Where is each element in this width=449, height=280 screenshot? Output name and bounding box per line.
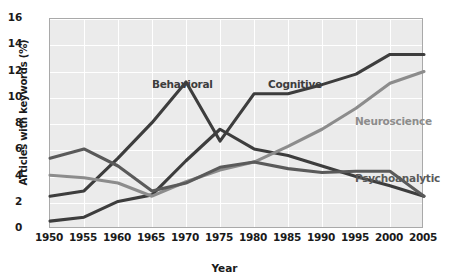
x-tick-label: 2005 [403, 231, 443, 243]
y-axis-label: Articles with keywords (%) [18, 38, 29, 188]
series-label-cognitive: Cognitive [268, 78, 322, 90]
y-tick-label: 16 [8, 11, 22, 23]
y-tick-label: 2 [15, 195, 22, 207]
y-tick-label: 0 [15, 221, 22, 233]
series-label-neuroscience: Neuroscience [355, 115, 432, 127]
series-label-behavioral: Behavioral [152, 78, 213, 90]
series-label-psychoanalytic: Psychoanalytic [355, 172, 440, 184]
line-chart: 0246810121416 19501955196019651970197519… [0, 0, 449, 280]
x-axis-label: Year [0, 262, 449, 274]
